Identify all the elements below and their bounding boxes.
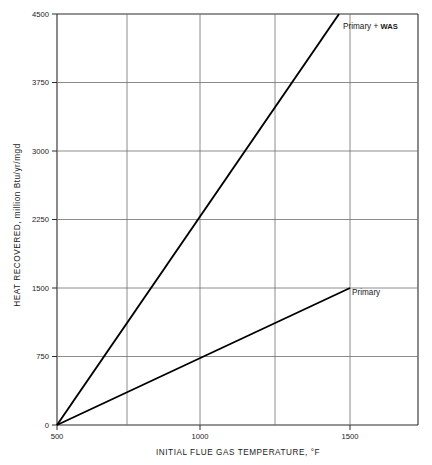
- chart-figure: 4500 3750 3000 2250 1500 750 0 500 1000 …: [0, 0, 432, 465]
- y-tick-label-1500: 1500: [32, 284, 49, 293]
- y-tick-label-4500: 4500: [32, 10, 49, 19]
- chart-svg: 4500 3750 3000 2250 1500 750 0 500 1000 …: [0, 0, 432, 465]
- y-tick-labels: 4500 3750 3000 2250 1500 750 0: [32, 10, 49, 430]
- x-axis-title: INITIAL FLUE GAS TEMPERATURE, °F: [156, 448, 320, 457]
- horizontal-gridlines: [57, 83, 418, 357]
- y-tick-label-3000: 3000: [32, 147, 49, 156]
- series-label-primary-plus-was-prefix: Primary +: [343, 22, 381, 31]
- x-tick-label-1000: 1000: [192, 432, 209, 441]
- series-label-primary-plus-was-suffix: WAS: [381, 22, 398, 31]
- series-label-primary: Primary: [352, 288, 381, 297]
- x-tick-marks: [57, 425, 350, 430]
- y-tick-label-2250: 2250: [32, 215, 49, 224]
- series-label-primary-plus-was: Primary + WAS: [343, 22, 398, 31]
- y-tick-label-750: 750: [36, 352, 49, 361]
- x-tick-labels: 500 1000 1500: [51, 432, 359, 441]
- y-tick-label-0: 0: [45, 421, 49, 430]
- x-tick-label-1500: 1500: [342, 432, 359, 441]
- x-tick-label-500: 500: [51, 432, 64, 441]
- y-tick-label-3750: 3750: [32, 78, 49, 87]
- y-axis-title: HEAT RECOVERED, million Btu/yr/mgd: [13, 143, 22, 307]
- y-tick-marks: [52, 14, 57, 425]
